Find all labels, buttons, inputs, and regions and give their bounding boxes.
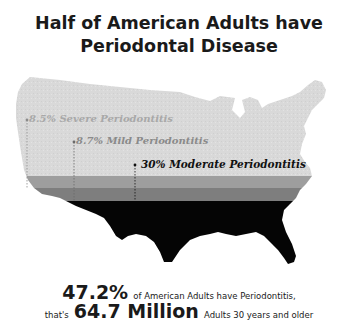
footer-line-2: that's 64.7 Million Adults 30 years and … bbox=[0, 300, 358, 322]
label-mild: 8.7% Mild Periodontitis bbox=[76, 135, 208, 146]
footer-million-text: Adults 30 years and older bbox=[204, 310, 313, 320]
footer-thats: that's bbox=[45, 310, 69, 320]
band-mild bbox=[0, 188, 358, 201]
label-moderate: 30% Moderate Periodontitis bbox=[141, 158, 306, 170]
label-severe: 8.5% Severe Periodontitis bbox=[29, 113, 173, 124]
footer-million: 64.7 Million bbox=[74, 300, 199, 322]
band-severe bbox=[0, 176, 358, 188]
band-moderate bbox=[0, 201, 358, 271]
